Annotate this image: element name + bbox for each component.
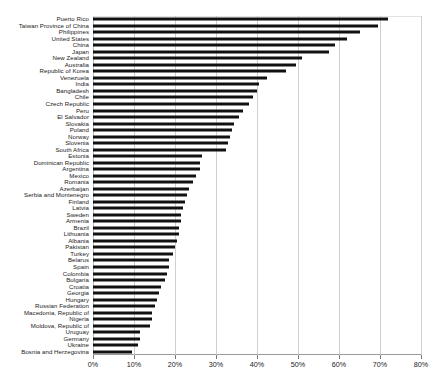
bar	[93, 76, 267, 79]
bar-row: Albania	[93, 238, 421, 245]
bar	[93, 350, 132, 353]
category-label: Bosnia and Herzegovina	[21, 348, 89, 355]
bar	[93, 279, 165, 282]
x-tick-label: 50%	[291, 360, 305, 369]
bar	[93, 181, 193, 184]
x-tick	[93, 355, 94, 359]
plot-area: Puerto RicoTaiwan Province of ChinaPhili…	[93, 16, 421, 355]
bar	[93, 129, 232, 132]
bar	[93, 89, 257, 92]
bar	[93, 226, 179, 229]
x-tick-label: 30%	[209, 360, 223, 369]
bar	[93, 344, 138, 347]
x-tick	[216, 355, 217, 359]
bar	[93, 331, 140, 334]
bar	[93, 305, 155, 308]
x-tick	[339, 355, 340, 359]
bar	[93, 187, 189, 190]
bar	[93, 292, 159, 295]
x-tick	[134, 355, 135, 359]
bar	[93, 259, 169, 262]
bar-row: Poland	[93, 127, 421, 134]
bar-row: Bosnia and Herzegovina	[93, 348, 421, 355]
bar	[93, 174, 196, 177]
bar	[93, 318, 152, 321]
bar-row: Chile	[93, 94, 421, 101]
x-tick	[421, 355, 422, 359]
x-tick	[257, 355, 258, 359]
bar	[93, 103, 249, 106]
bar	[93, 109, 243, 112]
bar	[93, 142, 228, 145]
bar	[93, 135, 230, 138]
x-tick	[298, 355, 299, 359]
bar	[93, 213, 181, 216]
bar	[93, 265, 169, 268]
bar	[93, 155, 202, 158]
bar	[93, 31, 360, 34]
bar	[93, 168, 200, 171]
bar	[93, 207, 183, 210]
bar-row: Estonia	[93, 153, 421, 160]
bar	[93, 96, 253, 99]
x-tick	[380, 355, 381, 359]
bar-row: Spain	[93, 264, 421, 271]
bar	[93, 324, 150, 327]
bar	[93, 63, 296, 66]
bar	[93, 24, 378, 27]
x-tick-label: 70%	[373, 360, 387, 369]
x-axis: 0%10%20%30%40%50%60%70%80%	[93, 355, 421, 377]
x-tick-label: 10%	[127, 360, 141, 369]
x-tick-label: 60%	[332, 360, 346, 369]
bar	[93, 220, 181, 223]
bar-row: China	[93, 42, 421, 49]
bar	[93, 233, 179, 236]
bar	[93, 70, 286, 73]
bar	[93, 272, 167, 275]
bar-row: Romania	[93, 179, 421, 186]
bar	[93, 57, 302, 60]
bar	[93, 285, 161, 288]
bar-rows: Puerto RicoTaiwan Province of ChinaPhili…	[93, 16, 421, 355]
x-tick	[175, 355, 176, 359]
bar	[93, 148, 226, 151]
x-tick-label: 80%	[414, 360, 428, 369]
x-tick-label: 20%	[168, 360, 182, 369]
bar	[93, 122, 234, 125]
bar	[93, 37, 347, 40]
bar	[93, 252, 173, 255]
x-tick-label: 0%	[88, 360, 98, 369]
bar	[93, 161, 200, 164]
bar	[93, 298, 157, 301]
bar-row: Sweden	[93, 212, 421, 219]
bar-row: Hungary	[93, 296, 421, 303]
bar-row: Moldova, Republic of	[93, 322, 421, 329]
bar	[93, 116, 239, 119]
bar	[93, 50, 329, 53]
gridline-80%	[421, 16, 422, 355]
bar	[93, 200, 185, 203]
bar	[93, 18, 388, 21]
bar	[93, 337, 140, 340]
bar	[93, 311, 152, 314]
bar-chart: Puerto RicoTaiwan Province of ChinaPhili…	[0, 0, 442, 384]
bar	[93, 44, 335, 47]
bar-row: Republic of Korea	[93, 68, 421, 75]
bar	[93, 194, 187, 197]
bar	[93, 239, 177, 242]
x-tick-label: 40%	[250, 360, 264, 369]
bar	[93, 246, 175, 249]
bar	[93, 83, 259, 86]
